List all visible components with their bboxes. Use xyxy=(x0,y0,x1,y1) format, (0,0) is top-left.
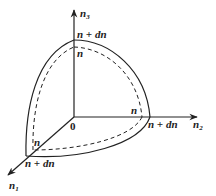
n3-outer-label: n + dn xyxy=(77,28,107,40)
n2-axis-label: n2 xyxy=(193,118,203,132)
n1-inner-label: n xyxy=(34,136,40,148)
n1-outer-label: n + dn xyxy=(25,157,55,169)
n3-inner-label: n xyxy=(77,47,83,59)
n2-outer-label: n + dn xyxy=(148,118,178,130)
n1-axis-label: n1 xyxy=(9,179,19,193)
n2-inner-label: n xyxy=(131,104,137,116)
n3-axis-label: n3 xyxy=(80,7,90,21)
origin-label: 0 xyxy=(70,120,76,132)
shell-diagram: 0 n3 n2 n1 n + dn n n + dn n n + dn n xyxy=(0,0,216,196)
outer-surface xyxy=(26,40,150,157)
